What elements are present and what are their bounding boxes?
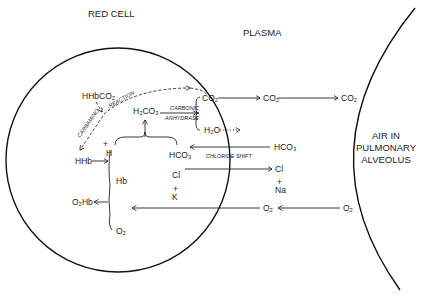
hco3-cell-label: HCO₃ <box>169 150 191 160</box>
hb-chain <box>109 150 112 230</box>
anhydrase-label: ANHYDRASE <box>164 115 200 121</box>
hhbco2-label: HHbCO₂ <box>82 91 115 101</box>
alveolus-label-3: ALVEOLUS <box>361 154 410 165</box>
na-label: Na <box>275 185 286 195</box>
h2o-label: H₂O <box>204 125 220 135</box>
cl-cell-label: Cl <box>172 170 180 180</box>
o2-cell-label: O₂ <box>116 226 126 236</box>
chloride-shift-label: CHLORIDE SHIFT <box>206 153 252 159</box>
co2-alveolus-label: CO₂ <box>341 93 357 103</box>
o2-alveolus-label: O₂ <box>343 203 353 213</box>
alveolus-label-2: PULMONARY <box>356 142 417 153</box>
carbamino-label: CARBAMINO <box>76 107 100 138</box>
co2-plasma-label: CO₂ <box>263 93 279 103</box>
red-cell-membrane <box>6 48 230 272</box>
carbonic-label: CARBONIC <box>170 105 199 111</box>
plasma-label: PLASMA <box>243 27 282 38</box>
hb-label: Hb <box>116 176 127 186</box>
hhb-label: HHb <box>75 156 92 166</box>
h2co3-label: H₂CO₃ <box>133 106 159 116</box>
o2-plasma-label: O₂ <box>263 203 273 213</box>
o2hb-label: O₂Hb <box>72 197 93 207</box>
cl-plasma-label: Cl <box>275 164 283 174</box>
red-cell-label: RED CELL <box>88 8 134 19</box>
co2-cell-label: CO₂ <box>202 93 218 103</box>
bohr-haldane-diagram: RED CELL PLASMA AIR IN PULMONARY ALVEOLU… <box>0 0 428 300</box>
alveolus-label-1: AIR IN <box>372 130 400 141</box>
hco3-plasma-label: HCO₃ <box>274 142 296 152</box>
k-label: K <box>172 192 178 202</box>
